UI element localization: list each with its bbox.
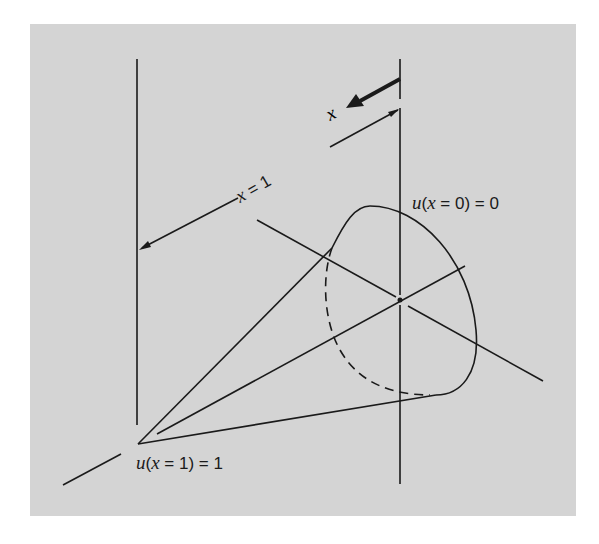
center-point	[398, 298, 403, 303]
figure-background	[30, 24, 576, 516]
cone-diagram: x x = 1 u(x = 0) = 0 u(x = 1) = 1	[0, 0, 599, 544]
boundary-condition-x1: u(x = 1) = 1	[136, 452, 223, 473]
boundary-condition-x0: u(x = 0) = 0	[412, 192, 499, 213]
